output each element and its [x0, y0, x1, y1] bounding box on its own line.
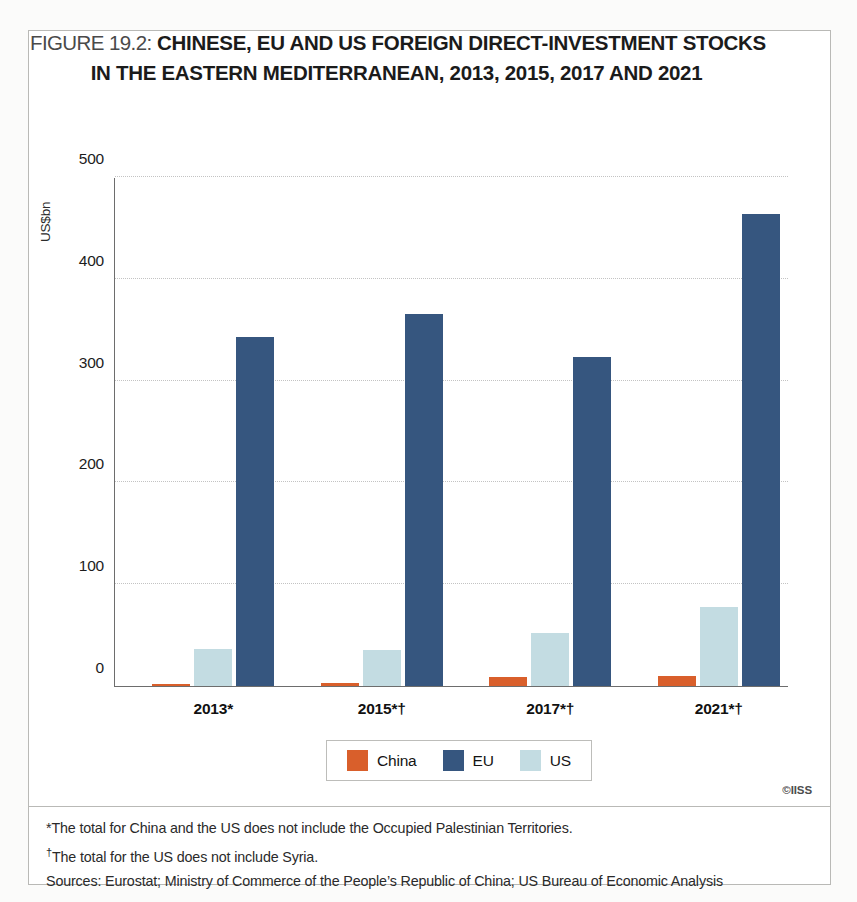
legend-swatch-eu — [443, 750, 464, 771]
notes-divider — [29, 806, 830, 807]
note-line-2: †The total for the US does not include S… — [46, 840, 826, 869]
y-axis-title: US$bn — [38, 222, 53, 242]
note-line-3-sources: Sources: Eurostat; Ministry of Commerce … — [46, 869, 826, 893]
bar-us-2[interactable] — [531, 633, 569, 686]
legend-label-us: US — [550, 752, 571, 770]
bar-china-0[interactable] — [152, 684, 190, 686]
y-axis-tick-label: 0 — [96, 659, 104, 677]
bar-us-3[interactable] — [700, 607, 738, 686]
x-axis-tick-label: 2015*† — [312, 700, 452, 718]
x-axis-tick-label: 2021*† — [649, 700, 789, 718]
y-axis-tick-label: 400 — [79, 252, 104, 270]
y-axis-tick-label: 300 — [79, 354, 104, 372]
bar-eu-1[interactable] — [405, 314, 443, 686]
legend-label-china: China — [377, 752, 417, 770]
bar-us-1[interactable] — [363, 650, 401, 686]
y-axis-tick-label: 100 — [79, 557, 104, 575]
bar-eu-0[interactable] — [236, 337, 274, 686]
chart-legend: ChinaEUUS — [326, 740, 592, 781]
note-line-2-text: The total for the US does not include Sy… — [52, 849, 318, 865]
bar-group — [115, 178, 284, 686]
legend-item-us[interactable]: US — [520, 750, 571, 771]
legend-label-eu: EU — [473, 752, 494, 770]
bar-group — [621, 178, 790, 686]
y-axis-tick-label: 200 — [79, 455, 104, 473]
bar-china-3[interactable] — [658, 676, 696, 686]
note-line-1: *The total for China and the US does not… — [46, 816, 826, 840]
legend-item-china[interactable]: China — [347, 750, 417, 771]
copyright-mark: ©IISS — [782, 784, 812, 796]
bar-eu-2[interactable] — [573, 357, 611, 686]
gridline — [115, 176, 788, 177]
bar-us-0[interactable] — [194, 649, 232, 686]
bar-group — [284, 178, 453, 686]
legend-swatch-china — [347, 750, 368, 771]
plot-area: 0100200300400500 2013*2015*†2017*†2021*† — [114, 178, 788, 687]
bar-eu-3[interactable] — [742, 214, 780, 686]
bar-group — [452, 178, 621, 686]
legend-item-eu[interactable]: EU — [443, 750, 494, 771]
figure-page: FIGURE 19.2: CHINESE, EU AND US FOREIGN … — [0, 0, 857, 902]
bar-china-1[interactable] — [321, 683, 359, 686]
legend-swatch-us — [520, 750, 541, 771]
x-axis-tick-label: 2013* — [143, 700, 283, 718]
bar-china-2[interactable] — [489, 677, 527, 686]
figure-notes: *The total for China and the US does not… — [46, 816, 826, 893]
y-axis-tick-label: 500 — [79, 150, 104, 168]
bars-layer — [115, 178, 788, 686]
x-axis-tick-label: 2017*† — [480, 700, 620, 718]
